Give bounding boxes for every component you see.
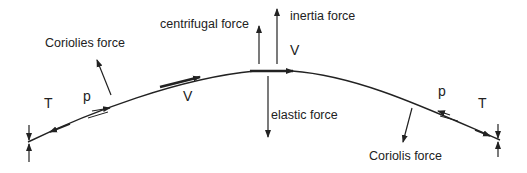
coriolies-force-label: Coriolies force xyxy=(45,37,125,50)
tension-right-label: T xyxy=(478,96,487,110)
coriolis-force-label: Coriolis force xyxy=(369,150,442,163)
tension-left-label: T xyxy=(44,96,53,110)
coriolis-force-arrow xyxy=(403,108,412,142)
velocity-mid-label: V xyxy=(183,89,192,103)
elastic-force-label: elastic force xyxy=(271,109,338,122)
pressure-offset-right xyxy=(440,116,458,121)
beam-curve xyxy=(28,71,500,142)
centrifugal-force-label: centrifugal force xyxy=(160,18,249,31)
pressure-left-label: p xyxy=(83,89,91,103)
tension-arrow-right xyxy=(475,130,490,136)
velocity-top-label: V xyxy=(290,43,299,57)
pressure-right-label: p xyxy=(438,84,446,98)
inertia-force-label: inertia force xyxy=(290,10,355,23)
tension-arrow-left xyxy=(50,124,70,132)
diagram-canvas xyxy=(0,0,527,173)
coriolies-force-arrow xyxy=(97,60,111,95)
force-diagram: centrifugal force inertia force V elasti… xyxy=(0,0,527,173)
